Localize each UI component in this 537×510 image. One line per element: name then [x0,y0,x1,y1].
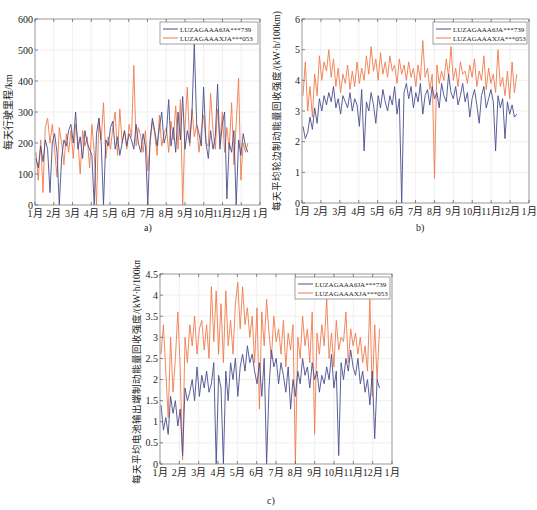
y-tick-label: 3 [295,106,300,117]
chart-a-plot: 01002003004005006001月2月3月4月5月6月7月8月9月10月… [0,0,270,220]
x-tick-label: 2月 [172,467,187,478]
x-tick-label: 6月 [249,467,264,478]
x-tick-label: 7月 [408,206,423,217]
legend-entry-label: LUZAGAAAXJA***053 [315,290,388,298]
x-tick-label: 4月 [211,467,226,478]
caption-a: a) [144,222,152,233]
x-tick-label: 2月 [313,206,328,217]
chart-b-wheel-regen-intensity: 01234561月2月3月4月5月6月7月8月9月10月11月12月1月每天平均… [270,0,537,220]
y-tick-label: 400 [18,76,33,87]
x-tick-label: 8月 [159,208,174,219]
x-tick-label: 9月 [307,467,322,478]
x-tick-label: 10月 [462,206,482,217]
y-axis-label: 每天平均轮边制动能量回收强度/(kW·h/100km) [271,11,283,211]
y-tick-label: 1 [295,167,300,178]
y-tick-label: 6 [295,14,300,25]
chart-b-plot: 01234561月2月3月4月5月6月7月8月9月10月11月12月1月每天平均… [270,0,537,220]
x-tick-label: 3月 [191,467,206,478]
x-tick-label: 2月 [46,208,61,219]
y-tick-label: 600 [18,14,33,25]
y-tick-label: 200 [18,138,33,149]
caption-b: b) [416,222,424,233]
y-tick-label: 3.5 [146,311,159,322]
y-tick-label: 300 [18,107,33,118]
y-tick-label: 3 [153,332,158,343]
x-tick-label: 7月 [140,208,155,219]
x-tick-label: 9月 [446,206,461,217]
y-tick-label: 2 [153,374,158,385]
y-tick-label: 1 [153,416,158,427]
y-tick-label: 1.5 [146,395,159,406]
x-tick-label: 1月 [28,208,43,219]
y-tick-label: 500 [18,45,33,56]
x-tick-label: 11月 [481,206,501,217]
legend: LUZAGAAA6JA***739LUZAGAAAXJA***053 [295,277,390,299]
x-tick-label: 5月 [103,208,118,219]
x-tick-label: 11月 [213,208,233,219]
x-tick-label: 4月 [84,208,99,219]
legend-entry-label: LUZAGAAA6JA***739 [180,26,252,34]
y-axis-label: 每天行驶里程/km [2,74,14,150]
x-tick-label: 1月 [385,467,400,478]
chart-c-plot: 00.511.522.533.544.51月2月3月4月5月6月7月8月9月10… [130,260,410,485]
x-tick-label: 5月 [230,467,245,478]
y-axis-label: 每天平均电池输出端制动能量回收强度/(kW·h/100km) [131,260,143,484]
caption-c: c) [267,495,275,506]
y-tick-label: 4 [153,290,158,301]
x-tick-label: 1月 [295,206,310,217]
x-tick-label: 12月 [363,467,383,478]
y-tick-label: 2.5 [146,353,159,364]
x-tick-label: 9月 [178,208,193,219]
x-tick-label: 3月 [65,208,80,219]
x-tick-label: 6月 [389,206,404,217]
x-tick-label: 1月 [153,467,168,478]
y-tick-label: 5 [295,44,300,55]
legend-entry-label: LUZAGAAAXJA***053 [180,35,253,43]
x-tick-label: 4月 [351,206,366,217]
chart-c-battery-regen-intensity: 00.511.522.533.544.51月2月3月4月5月6月7月8月9月10… [130,260,410,485]
y-tick-label: 100 [18,169,33,180]
x-tick-label: 10月 [194,208,214,219]
legend-entry-label: LUZAGAAA6JA***739 [453,26,525,34]
x-tick-label: 3月 [332,206,347,217]
x-tick-label: 6月 [121,208,136,219]
x-tick-label: 11月 [344,467,364,478]
x-tick-label: 12月 [500,206,520,217]
x-tick-label: 8月 [427,206,442,217]
legend: LUZAGAAA6JA***739LUZAGAAAXJA***053 [160,22,258,44]
x-tick-label: 12月 [231,208,251,219]
x-tick-label: 8月 [288,467,303,478]
x-tick-label: 5月 [370,206,385,217]
x-tick-label: 7月 [269,467,284,478]
x-tick-label: 1月 [522,206,537,217]
legend-entry-label: LUZAGAAAXJA***053 [453,35,526,43]
y-tick-label: 4.5 [146,269,159,280]
x-tick-label: 1月 [253,208,268,219]
legend-entry-label: LUZAGAAA6JA***739 [315,281,387,289]
x-tick-label: 10月 [324,467,344,478]
chart-a-daily-mileage: 01002003004005006001月2月3月4月5月6月7月8月9月10月… [0,0,270,220]
y-tick-label: 2 [295,136,300,147]
y-tick-label: 0.5 [146,437,159,448]
legend: LUZAGAAA6JA***739LUZAGAAAXJA***053 [433,22,527,44]
y-tick-label: 4 [295,75,300,86]
